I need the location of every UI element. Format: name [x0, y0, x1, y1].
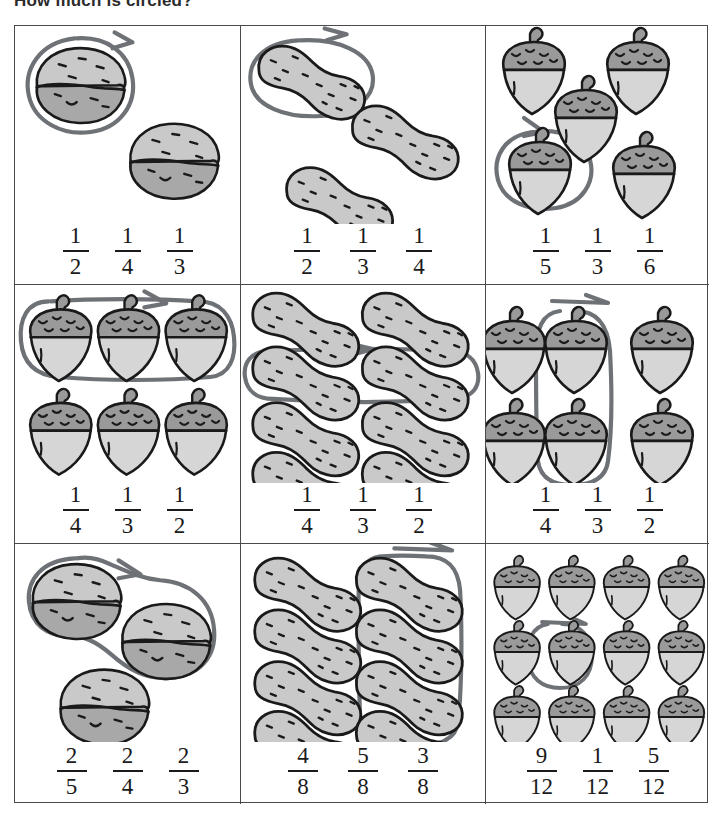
numerator: 4	[297, 744, 309, 768]
answer-choice[interactable]: 1 4	[115, 224, 141, 278]
problem-cell-1[interactable]: 1 2 1 4 1 3	[15, 26, 241, 285]
denominator: 4	[540, 513, 552, 537]
fraction-bar	[63, 509, 89, 511]
denominator: 3	[174, 254, 186, 278]
answer-choice[interactable]: 2 4	[113, 744, 143, 798]
answer-choice[interactable]: 1 3	[585, 483, 611, 537]
numerator: 5	[648, 744, 660, 768]
answer-choice[interactable]: 1 5	[533, 224, 559, 278]
answer-choice[interactable]: 1 2	[406, 483, 432, 537]
denominator: 8	[417, 774, 429, 798]
fraction-bar	[583, 770, 613, 772]
answer-choices-2: 1 2 1 3 1 4	[241, 224, 485, 278]
answer-choice[interactable]: 1 3	[350, 224, 376, 278]
walnut-1	[37, 48, 126, 123]
answer-choice[interactable]: 1 3	[167, 224, 193, 278]
numerator: 9	[536, 744, 548, 768]
numerator: 1	[70, 224, 82, 248]
answer-choice[interactable]: 5 12	[639, 744, 669, 798]
fraction-bar	[63, 250, 89, 252]
fraction-bar	[57, 770, 87, 772]
answer-choice[interactable]: 1 2	[167, 483, 193, 537]
fraction-bar	[585, 250, 611, 252]
numerator: 2	[66, 744, 78, 768]
numerator: 1	[644, 483, 656, 507]
answer-choice[interactable]: 9 12	[527, 744, 557, 798]
problem-cell-4[interactable]: 1 4 1 3 1 2	[15, 285, 241, 544]
answer-choices-3: 1 5 1 3 1 6	[486, 224, 709, 278]
answer-choice[interactable]: 1 2	[637, 483, 663, 537]
numerator: 1	[122, 483, 134, 507]
numerator: 1	[357, 483, 369, 507]
answer-choices-9: 9 12 1 12 5 12	[486, 744, 709, 798]
acorn-1	[503, 28, 565, 114]
acorn-11	[604, 686, 650, 742]
problem-cell-5[interactable]: 1 4 1 3 1 2	[241, 285, 486, 544]
answer-choices-8: 4 8 5 8 3 8	[241, 744, 485, 798]
fraction-bar	[406, 250, 432, 252]
acorn-5	[613, 132, 675, 218]
numerator: 1	[592, 483, 604, 507]
answer-choice[interactable]: 1 3	[585, 224, 611, 278]
answer-choice[interactable]: 4 8	[288, 744, 318, 798]
problem-illustration-5	[241, 285, 485, 483]
problem-illustration-8	[241, 544, 485, 742]
fraction-bar	[408, 770, 438, 772]
peanut-2	[352, 106, 458, 179]
denominator: 3	[592, 513, 604, 537]
numerator: 1	[122, 224, 134, 248]
denominator: 6	[644, 254, 656, 278]
answer-choice[interactable]: 1 2	[294, 224, 320, 278]
fraction-bar	[113, 770, 143, 772]
acorn-4	[659, 556, 705, 620]
answer-choice[interactable]: 1 3	[115, 483, 141, 537]
numerator: 5	[357, 744, 369, 768]
answer-choice[interactable]: 3 8	[408, 744, 438, 798]
acorn-6	[631, 399, 693, 483]
peanut-3	[287, 168, 393, 224]
answer-choice[interactable]: 5 8	[348, 744, 378, 798]
answer-choice[interactable]: 1 4	[406, 224, 432, 278]
walnut-2	[122, 604, 211, 679]
problem-cell-2[interactable]: 1 2 1 3 1 4	[241, 26, 486, 285]
denominator: 8	[297, 774, 309, 798]
denominator: 4	[122, 254, 134, 278]
denominator: 4	[70, 513, 82, 537]
numerator: 1	[301, 224, 313, 248]
fraction-worksheet: How much is circled?	[0, 0, 722, 813]
answer-choices-7: 2 5 2 4 2 3	[15, 744, 240, 798]
answer-choice[interactable]: 2 3	[169, 744, 199, 798]
answer-choice[interactable]: 2 5	[57, 744, 87, 798]
problem-cell-9[interactable]: 9 12 1 12 5 12	[486, 544, 709, 804]
answer-choice[interactable]: 1 4	[294, 483, 320, 537]
denominator: 3	[592, 254, 604, 278]
numerator: 1	[357, 224, 369, 248]
numerator: 1	[644, 224, 656, 248]
answer-choice[interactable]: 1 3	[350, 483, 376, 537]
denominator: 12	[530, 774, 553, 798]
denominator: 5	[540, 254, 552, 278]
walnut-2	[130, 124, 219, 199]
answer-choice[interactable]: 1 6	[637, 224, 663, 278]
answer-choice[interactable]: 1 4	[63, 483, 89, 537]
numerator: 1	[174, 483, 186, 507]
denominator: 12	[642, 774, 665, 798]
answer-choice[interactable]: 1 4	[533, 483, 559, 537]
numerator: 2	[122, 744, 134, 768]
acorn-10	[549, 686, 595, 742]
acorn-5	[98, 389, 159, 475]
acorn-1	[30, 295, 91, 381]
numerator: 1	[540, 483, 552, 507]
problem-cell-3[interactable]: 1 5 1 3 1 6	[486, 26, 709, 285]
problem-cell-8[interactable]: 4 8 5 8 3 8	[241, 544, 486, 804]
denominator: 2	[413, 513, 425, 537]
numerator: 3	[417, 744, 429, 768]
fraction-bar	[350, 250, 376, 252]
answer-choice[interactable]: 1 12	[583, 744, 613, 798]
numerator: 2	[178, 744, 190, 768]
problem-cell-7[interactable]: 2 5 2 4 2 3	[15, 544, 241, 804]
denominator: 2	[70, 254, 82, 278]
answer-choice[interactable]: 1 2	[63, 224, 89, 278]
problem-cell-6[interactable]: 1 4 1 3 1 2	[486, 285, 709, 544]
denominator: 8	[357, 774, 369, 798]
